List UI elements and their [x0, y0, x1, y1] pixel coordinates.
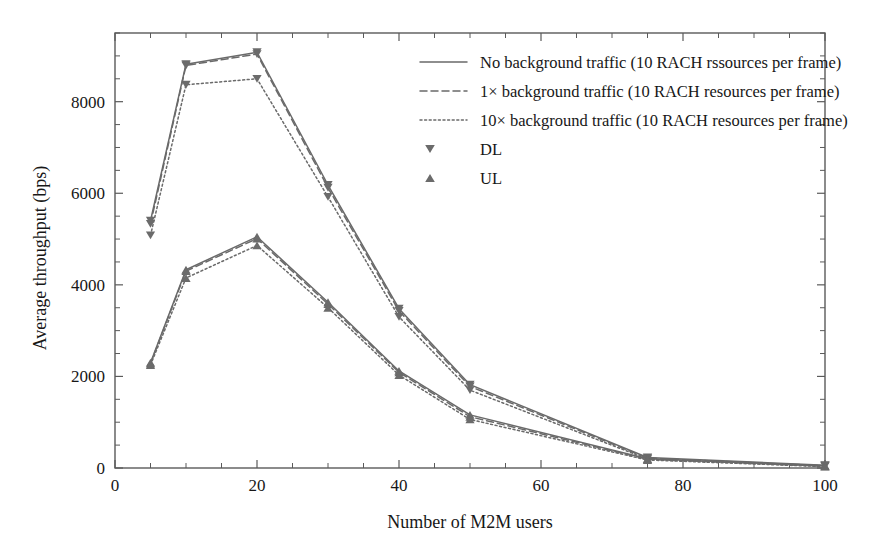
x-tick-label: 100	[812, 476, 838, 495]
y-axis-title: Average throughput (bps)	[30, 166, 51, 351]
y-tick-label: 4000	[71, 276, 105, 295]
legend-item-label: No background traffic (10 RACH rssources…	[480, 53, 841, 72]
throughput-line-chart: 02040608010002000400060008000 No backgro…	[0, 0, 871, 560]
x-tick-label: 20	[249, 476, 266, 495]
y-tick-label: 6000	[71, 184, 105, 203]
legend-item-label: DL	[480, 140, 502, 159]
x-tick-label: 80	[675, 476, 692, 495]
figure-container: 02040608010002000400060008000 No backgro…	[0, 0, 871, 560]
y-tick-label: 2000	[71, 367, 105, 386]
y-tick-label: 8000	[71, 93, 105, 112]
x-tick-label: 60	[533, 476, 550, 495]
legend-item-label: 1× background traffic (10 RACH resources…	[480, 82, 840, 101]
x-tick-label: 40	[391, 476, 408, 495]
legend-item-label: UL	[480, 169, 502, 188]
x-tick-label: 0	[111, 476, 120, 495]
x-axis-title: Number of M2M users	[387, 512, 552, 532]
y-tick-label: 0	[97, 459, 106, 478]
legend-item-label: 10× background traffic (10 RACH resource…	[480, 111, 848, 130]
